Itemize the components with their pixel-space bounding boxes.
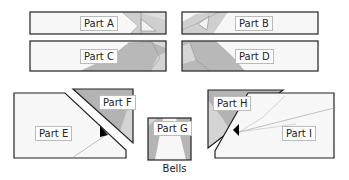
part-d-label: Part D — [235, 49, 274, 64]
part-i-label: Part I — [282, 126, 316, 141]
part-h-label: Part H — [213, 96, 251, 111]
part-g-label: Part G — [153, 121, 192, 136]
diagram-caption: Bells — [0, 163, 349, 174]
part-f-label: Part F — [99, 95, 136, 110]
bells-diagram: Part A Part B Part C Part D Part E Part … — [0, 0, 349, 180]
part-a-label: Part A — [80, 16, 118, 31]
part-e-label: Part E — [35, 126, 72, 141]
part-b-label: Part B — [235, 16, 273, 31]
diagram-canvas — [0, 0, 349, 180]
part-c-label: Part C — [80, 49, 118, 64]
